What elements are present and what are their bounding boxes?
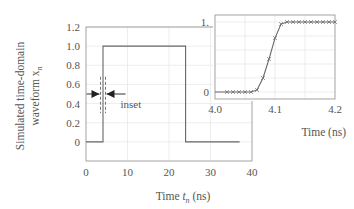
y-tick-label: 1.2 (66, 21, 80, 33)
arrow-left-head (92, 90, 100, 98)
y-tick-label: 1.0 (66, 40, 80, 52)
inset-plot: 4.04.14.201. (201, 13, 351, 115)
x-tick-label: 4.2 (328, 103, 342, 115)
inset-background (213, 13, 351, 101)
chart: 01020304000.20.40.60.81.01.2inset 4.04.1… (0, 0, 354, 209)
x-tick-label: 4.0 (208, 103, 222, 115)
x-tick-label: 10 (122, 166, 134, 178)
arrow-right-head (107, 90, 115, 98)
x-tick-label: 30 (205, 166, 217, 178)
y-tick-label: 0.8 (66, 59, 80, 71)
y-axis-label-line2: waveform xn (29, 66, 44, 125)
y-tick-label: 0.2 (66, 117, 80, 129)
y-tick-label: 0 (75, 136, 81, 148)
x-tick-label: 0 (83, 166, 89, 178)
x-tick-label: 20 (164, 166, 176, 178)
y-tick-label: 0.4 (66, 98, 80, 110)
y-tick-label: 0.6 (66, 78, 80, 90)
x-axis-label: Time tn (ns) (156, 190, 211, 205)
y-axis-label-line1: Simulated time-domain (14, 42, 26, 151)
x-tick-label: 4.1 (268, 103, 282, 115)
y-tick-label: 1. (201, 16, 210, 28)
inset-annotation-label: inset (121, 98, 142, 110)
y-tick-label: 0 (204, 86, 210, 98)
x-tick-label: 40 (247, 166, 259, 178)
inset-x-axis-label: Time (ns) (301, 126, 346, 139)
